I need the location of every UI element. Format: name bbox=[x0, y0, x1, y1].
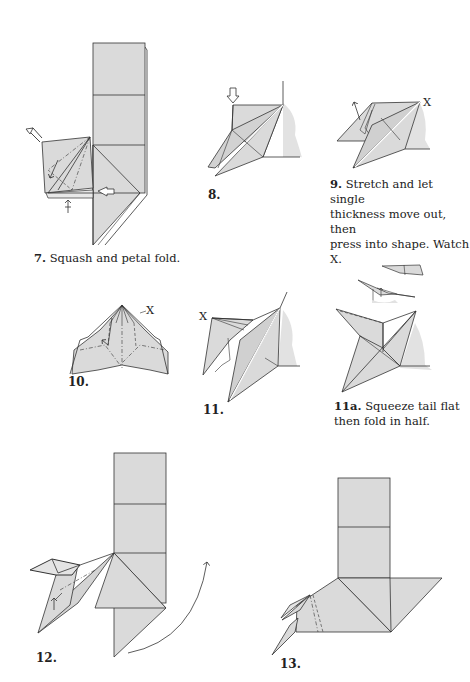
step-11a-caption-line-1: Squeeze tail flat bbox=[365, 399, 459, 413]
step-11a-caption: 11a. Squeeze tail flat then fold in half… bbox=[334, 399, 469, 429]
step-11a-caption-line-2: then fold in half. bbox=[334, 414, 430, 428]
step-10-number: 10. bbox=[68, 375, 89, 389]
step-7-caption-text: Squash and petal fold. bbox=[50, 251, 181, 265]
step-8-diagram bbox=[208, 81, 302, 176]
step-7-diagram bbox=[26, 43, 147, 245]
step-9-caption: 9. Stretch and let single thickness move… bbox=[330, 177, 470, 267]
step-8-number: 8. bbox=[208, 188, 221, 202]
step-9-caption-line-3: press into shape. Watch X. bbox=[330, 237, 469, 266]
step-9-number: 9. bbox=[330, 177, 342, 191]
step-11-marker-x: X bbox=[199, 309, 207, 324]
step-10-marker-x: X bbox=[146, 303, 154, 318]
step-12-number: 12. bbox=[36, 651, 57, 665]
step-11-number: 11. bbox=[203, 403, 224, 417]
step-7-caption: 7. Squash and petal fold. bbox=[34, 251, 180, 266]
step-11a-diagram bbox=[336, 265, 432, 392]
step-11-diagram bbox=[203, 292, 300, 402]
step-12-diagram bbox=[30, 453, 207, 657]
step-9-diagram bbox=[337, 102, 430, 168]
step-9-caption-line-2: thickness move out, then bbox=[330, 207, 446, 236]
step-13-number: 13. bbox=[280, 657, 301, 671]
step-7-number: 7. bbox=[34, 251, 46, 265]
step-13-diagram bbox=[272, 478, 442, 655]
step-9-caption-line-1: Stretch and let single bbox=[330, 177, 433, 206]
step-9-marker-x: X bbox=[423, 95, 431, 110]
step-11a-number: 11a. bbox=[334, 399, 361, 413]
